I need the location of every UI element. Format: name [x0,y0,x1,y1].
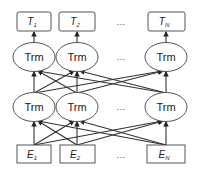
top-transformer-layer: Trm Trm … Trm [13,43,187,72]
svg-text:Trm: Trm [67,51,86,63]
trm-node-top-n: Trm [145,43,187,72]
bert-architecture-diagram: T1 T2 … TN Trm Trm … Trm Trm [0,0,198,175]
output-box-t2: T2 [59,12,95,31]
top-layer-ellipsis: … [117,52,126,62]
svg-text:Trm: Trm [24,51,43,63]
input-box-en: EN [147,145,185,163]
svg-text:Trm: Trm [24,101,43,113]
bottom-layer-ellipsis: … [117,102,126,112]
input-box-e1: E1 [17,145,51,163]
bottom-to-top-connections [34,71,166,93]
trm-node-bottom-n: Trm [145,93,187,122]
input-ellipsis: … [117,150,126,160]
trm-node-top-2: Trm [56,43,98,72]
input-to-bottom-connections [34,121,166,145]
trm-node-bottom-2: Trm [56,93,98,122]
trm-node-bottom-1: Trm [13,93,55,122]
output-row: T1 T2 … TN [17,12,185,31]
svg-text:Trm: Trm [67,101,86,113]
svg-text:Trm: Trm [156,101,175,113]
top-to-output-connections [34,32,166,43]
input-row: E1 E2 … EN [17,145,185,163]
input-box-e2: E2 [60,145,95,163]
output-ellipsis: … [117,17,126,27]
output-box-tn: TN [148,12,185,31]
svg-text:Trm: Trm [156,51,175,63]
trm-node-top-1: Trm [13,43,55,72]
output-box-t1: T1 [17,12,51,31]
bottom-transformer-layer: Trm Trm … Trm [13,93,187,122]
